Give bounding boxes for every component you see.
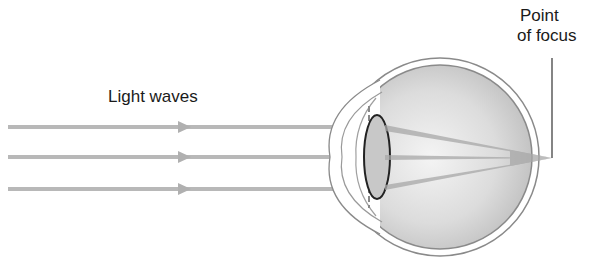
point-of-focus-label: Point of focus: [517, 6, 596, 46]
point-of-focus-line2: of focus: [517, 26, 596, 46]
eye-illustration: [0, 0, 596, 266]
light-waves-label: Light waves: [108, 87, 198, 107]
eye-diagram: Light waves Point of focus: [0, 0, 596, 266]
light-rays: [8, 127, 372, 189]
point-of-focus-line1: Point: [517, 6, 596, 26]
